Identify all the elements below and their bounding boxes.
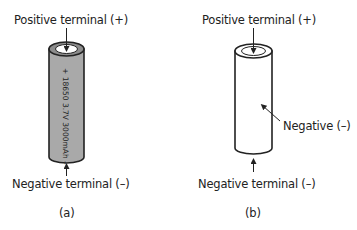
positive-terminal-label-a: Positive terminal (+)	[14, 13, 128, 27]
battery-b	[235, 28, 280, 172]
negative-terminal-label-b: Negative terminal (–)	[198, 177, 315, 191]
battery-diagram: + 18650 3.7V 3000mAh –	[0, 0, 357, 230]
negative-terminal-label-a: Negative terminal (–)	[12, 177, 129, 191]
svg-text:+ 18650 3.7V 3000mAh –: + 18650 3.7V 3000mAh –	[61, 68, 70, 165]
caption-b: (b)	[245, 206, 261, 220]
caption-a: (a)	[59, 206, 74, 220]
battery-a: + 18650 3.7V 3000mAh –	[49, 28, 84, 176]
positive-terminal-label-b: Positive terminal (+)	[202, 13, 316, 27]
negative-side-label-b: Negative (–)	[283, 119, 351, 133]
